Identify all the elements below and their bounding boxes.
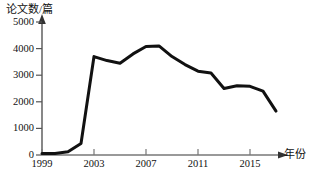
- x-tick-label-2015: 2015: [230, 158, 270, 169]
- line-chart: 论文数/篇 年份 0 1000 2000 3000 4000 5000 1999…: [0, 0, 311, 188]
- y-tick-label-1000: 1000: [2, 122, 34, 133]
- x-tick-label-2011: 2011: [178, 158, 218, 169]
- x-tick-label-2007: 2007: [126, 158, 166, 169]
- x-axis-title: 年份: [284, 148, 306, 160]
- y-tick-label-4000: 4000: [2, 43, 34, 54]
- y-axis-title: 论文数/篇: [6, 3, 53, 15]
- y-tick-label-5000: 5000: [2, 16, 34, 27]
- y-axis-ticks: [36, 22, 42, 155]
- y-tick-label-2000: 2000: [2, 96, 34, 107]
- y-axis-group: [36, 14, 46, 155]
- x-tick-label-1999: 1999: [22, 158, 62, 169]
- y-tick-label-3000: 3000: [2, 69, 34, 80]
- data-series-line: [42, 46, 276, 153]
- x-tick-label-2003: 2003: [74, 158, 114, 169]
